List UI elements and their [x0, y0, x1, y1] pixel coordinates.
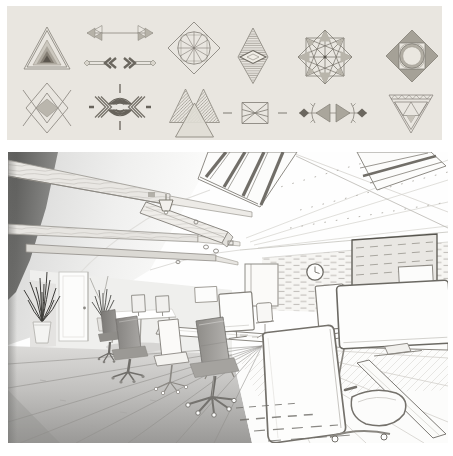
monitor-small-back: [195, 286, 218, 302]
door-knob: [83, 307, 86, 310]
geometric-designs-sheet: [0, 0, 453, 150]
collage-page: [0, 0, 453, 456]
sheet-background-tint: [7, 6, 442, 140]
entry-door: [59, 272, 88, 341]
left-edge-shadow: [8, 152, 17, 443]
office-sketch: [0, 150, 453, 456]
wall-clock: [307, 264, 323, 280]
design-star-mandala: [298, 30, 352, 84]
foreground-chair-seat: [351, 390, 406, 425]
